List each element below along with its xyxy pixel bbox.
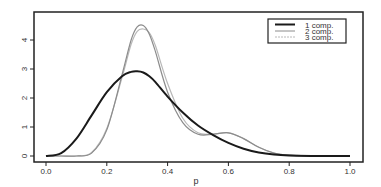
x-tick-label: 1.0 bbox=[344, 167, 356, 176]
x-tick-label: 0.6 bbox=[223, 167, 235, 176]
x-axis-ticks: 0.00.20.40.60.81.0 bbox=[40, 162, 356, 176]
y-tick-label: 4 bbox=[20, 37, 29, 42]
density-chart: 01234 0.00.20.40.60.81.0 1 comp. 2 comp.… bbox=[0, 0, 381, 187]
legend: 1 comp. 2 comp. 3 comp. bbox=[268, 19, 346, 43]
y-tick-label: 2 bbox=[20, 95, 29, 100]
x-tick-label: 0.4 bbox=[162, 167, 174, 176]
y-axis-ticks: 01234 bbox=[20, 37, 35, 158]
x-axis-label: p bbox=[193, 176, 198, 186]
series-line-1-comp bbox=[46, 71, 350, 156]
x-tick-label: 0.0 bbox=[40, 167, 52, 176]
y-tick-label: 3 bbox=[20, 66, 29, 71]
y-tick-label: 1 bbox=[20, 124, 29, 129]
x-tick-label: 0.8 bbox=[284, 167, 296, 176]
y-tick-label: 0 bbox=[20, 153, 29, 158]
series-lines bbox=[46, 25, 350, 156]
series-line-3-comp bbox=[46, 29, 350, 156]
x-tick-label: 0.2 bbox=[101, 167, 113, 176]
series-line-2-comp bbox=[46, 25, 350, 156]
legend-label-3comp: 3 comp. bbox=[305, 33, 333, 42]
